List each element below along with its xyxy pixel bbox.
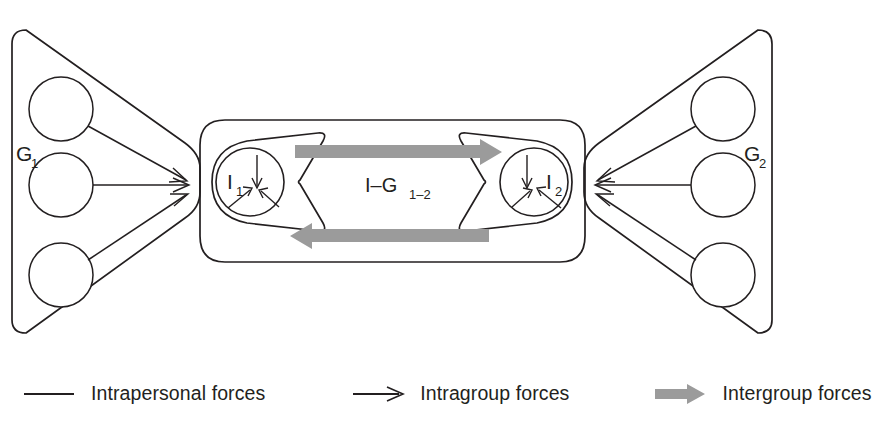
gray-arrow-icon [653, 384, 711, 404]
individual-left-label: I [227, 170, 233, 193]
group-label-left: G 1 [16, 142, 38, 171]
dyad-label-main: I–G [365, 174, 397, 196]
individual-right-label: I [546, 170, 552, 193]
member-circle [29, 243, 93, 307]
plain-line-icon [22, 384, 80, 404]
legend-label-intragroup: Intragroup forces [420, 382, 569, 405]
member-circle [29, 153, 93, 217]
legend-label-intergroup: Intergroup forces [722, 382, 871, 405]
legend-item-intragroup: Intragroup forces [351, 382, 569, 405]
intragroup-arrows-right [595, 126, 696, 260]
black-arrow-icon [351, 384, 409, 404]
group-left-sublabel: 1 [31, 156, 38, 171]
group-right-members [691, 77, 755, 307]
individual-right-sublabel: 2 [555, 184, 562, 199]
legend: Intrapersonal forces Intragroup forces I… [0, 378, 784, 426]
intragroup-arrows-left [88, 126, 189, 260]
individual-right: I 2 [500, 148, 568, 216]
dyad-label: I–G 1–2 [365, 174, 431, 202]
member-circle [691, 77, 755, 141]
group-right-sublabel: 2 [759, 156, 766, 171]
group-left-label: G [16, 142, 32, 165]
member-circle [691, 243, 755, 307]
dyad-label-sub: 1–2 [409, 187, 431, 202]
group-right-label: G [744, 142, 760, 165]
legend-label-intrapersonal: Intrapersonal forces [91, 382, 265, 405]
individual-left-sublabel: 1 [236, 184, 243, 199]
legend-item-intrapersonal: Intrapersonal forces [22, 382, 265, 405]
legend-item-intergroup: Intergroup forces [653, 382, 871, 405]
individual-left: I 1 [216, 148, 284, 216]
member-circle [29, 77, 93, 141]
group-left-members [29, 77, 93, 307]
